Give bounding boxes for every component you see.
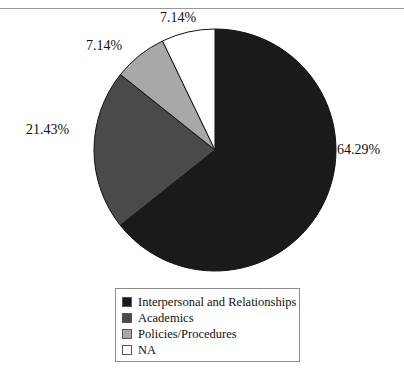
legend-swatch-icon [122, 313, 132, 323]
legend-item: Interpersonal and Relationships [122, 294, 299, 310]
pie-chart-svg [93, 23, 337, 277]
chart-legend: Interpersonal and Relationships Academic… [115, 288, 300, 362]
legend-item: NA [122, 342, 299, 358]
legend-item: Policies/Procedures [122, 326, 299, 342]
legend-item: Academics [122, 310, 299, 326]
slice-label-academics: 21.43% [26, 122, 69, 138]
legend-item-label: Interpersonal and Relationships [138, 295, 296, 309]
slice-label-policies: 7.14% [86, 38, 122, 54]
legend-item-label: Policies/Procedures [138, 327, 237, 341]
legend-item-label: Academics [138, 311, 194, 325]
legend-item-label: NA [138, 343, 156, 357]
slice-label-interpersonal: 64.29% [337, 142, 380, 158]
legend-swatch-icon [122, 297, 132, 307]
slice-label-na: 7.14% [160, 10, 196, 26]
legend-swatch-icon [122, 329, 132, 339]
pie-slice-group [94, 29, 336, 271]
legend-swatch-icon [122, 345, 132, 355]
